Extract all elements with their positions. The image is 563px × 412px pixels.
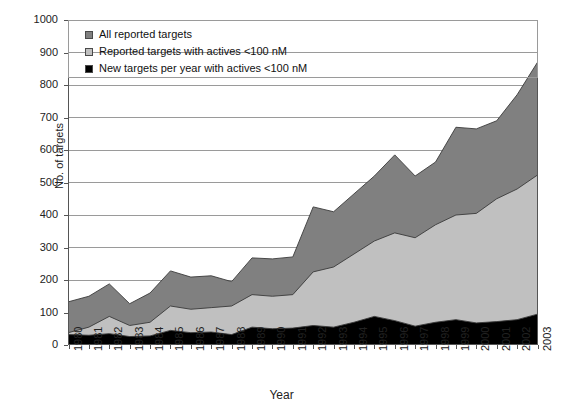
x-tick-mark (211, 345, 212, 349)
x-tick-mark (293, 345, 294, 349)
x-tick-mark (150, 345, 151, 349)
x-tick-mark (272, 345, 273, 349)
x-tick-label: 1990 (276, 327, 287, 351)
x-tick-label: 1986 (195, 327, 206, 351)
x-tick-label: 2003 (542, 327, 553, 351)
x-tick-label: 1987 (215, 327, 226, 351)
x-tick-label: 1980 (73, 327, 84, 351)
x-tick-mark (313, 345, 314, 349)
x-tick-label: 1996 (399, 327, 410, 351)
y-tick-label: 200 (14, 274, 58, 285)
x-tick-label: 1999 (460, 327, 471, 351)
x-tick-label: 1993 (338, 327, 349, 351)
x-tick-mark (130, 345, 131, 349)
x-tick-mark (109, 345, 110, 349)
x-tick-label: 2000 (480, 327, 491, 351)
plot-area (68, 20, 538, 345)
y-tick-label: 800 (14, 79, 58, 90)
x-tick-label: 1988 (236, 327, 247, 351)
y-tick-label: 400 (14, 209, 58, 220)
x-tick-mark (374, 345, 375, 349)
x-tick-mark (170, 345, 171, 349)
x-tick-mark (395, 345, 396, 349)
y-tick-label: 1000 (14, 14, 58, 25)
y-tick-label: 900 (14, 47, 58, 58)
y-tick-label: 600 (14, 144, 58, 155)
x-tick-label: 1997 (419, 327, 430, 351)
x-tick-label: 2001 (501, 327, 512, 351)
y-tick-label: 500 (14, 177, 58, 188)
x-tick-label: 1981 (93, 327, 104, 351)
x-tick-label: 1989 (256, 327, 267, 351)
y-tick-mark (64, 345, 68, 346)
x-tick-mark (232, 345, 233, 349)
x-tick-mark (354, 345, 355, 349)
x-tick-mark (89, 345, 90, 349)
x-tick-label: 1992 (317, 327, 328, 351)
x-tick-mark (415, 345, 416, 349)
x-tick-mark (538, 345, 539, 349)
y-tick-label: 300 (14, 242, 58, 253)
x-tick-label: 1995 (378, 327, 389, 351)
x-tick-label: 1982 (113, 327, 124, 351)
y-tick-label: 700 (14, 112, 58, 123)
x-tick-mark (436, 345, 437, 349)
x-tick-mark (334, 345, 335, 349)
x-tick-mark (497, 345, 498, 349)
x-tick-label: 1983 (134, 327, 145, 351)
y-tick-label: 100 (14, 307, 58, 318)
x-tick-mark (69, 345, 70, 349)
x-tick-mark (191, 345, 192, 349)
x-tick-label: 1991 (297, 327, 308, 351)
series-layer (69, 62, 538, 345)
x-tick-label: 1994 (358, 327, 369, 351)
x-tick-mark (456, 345, 457, 349)
x-axis-title: Year (0, 388, 563, 402)
area-chart-svg (68, 20, 538, 345)
x-tick-mark (252, 345, 253, 349)
y-tick-label: 0 (14, 339, 58, 350)
x-tick-label: 2002 (521, 327, 532, 351)
x-tick-label: 1984 (154, 327, 165, 351)
x-tick-mark (476, 345, 477, 349)
x-tick-label: 1998 (440, 327, 451, 351)
chart-container: No. of targets 0100200300400500600700800… (0, 0, 563, 412)
x-tick-mark (517, 345, 518, 349)
x-tick-label: 1985 (174, 327, 185, 351)
